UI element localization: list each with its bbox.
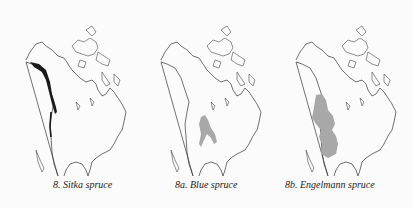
caption-engelmann-spruce: 8b. Engelmann spruce [285,179,375,190]
caption-sitka-spruce: 8. Sitka spruce [53,179,112,190]
map-blue-spruce [141,12,271,177]
sitka-range [30,62,57,114]
map-engelmann-spruce [276,12,406,177]
caption-blue-spruce: 8a. Blue spruce [175,179,238,190]
map-sitka-spruce [6,12,136,177]
engelmann-spruce-range [312,94,338,158]
blue-spruce-range [199,115,217,147]
north-america-outline [6,12,136,177]
